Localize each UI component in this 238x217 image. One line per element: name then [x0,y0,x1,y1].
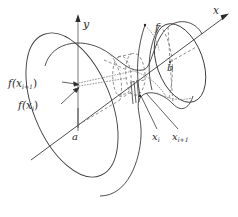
hidden-construction-lines [78,25,198,125]
sample-label-xi-sub: i [158,136,160,143]
top-silhouette-curve [45,22,202,71]
leader-fxi [61,90,76,104]
value-label-f-xi-plus-1-sub: i+1 [22,83,33,90]
x-axis-label: x [213,4,219,16]
value-label-f-xi-plus-1: f(xi+1) [7,77,37,90]
sample-label-xi-plus-1-sub: i+1 [178,136,189,143]
solid-of-revolution-diagram: y x f a b f(xi+1) f(xi) xi xi+1 [0,0,238,217]
solid-surface-group [7,17,215,196]
value-label-f-xi-main: f(x [17,99,32,111]
lower-bound-label-a: a [72,131,78,142]
curve-label-f: f [154,21,161,33]
value-label-f-xi-plus-1-main: f(x [7,77,22,89]
value-label-f-xi-plus-1-close: ) [33,77,37,89]
marker-dot-neck [139,95,141,97]
value-label-f-xi-close: ) [34,99,38,111]
dotted-line-fxi1 [79,71,133,83]
marker-dot-f [144,24,146,26]
shell-ellipse-xi [113,56,131,97]
figure-canvas: y x f a b f(xi+1) f(xi) xi xi+1 [0,0,238,217]
leader-xi [141,96,157,129]
upper-bound-label-b: b [167,62,173,73]
y-axis-arrowhead-icon [75,14,80,22]
leader-lines-group [61,80,178,129]
shell-front-edge-inner [134,81,136,103]
sample-label-xi-plus-1: xi+1 [172,131,189,143]
a-baseline-dashed [78,100,120,125]
sample-label-xi: xi [152,131,160,143]
value-label-f-xi: f(xi) [17,99,38,112]
neck-hidden-diag [104,60,127,70]
dotted-level-lines [79,26,192,99]
y-axis-label: y [82,18,90,31]
